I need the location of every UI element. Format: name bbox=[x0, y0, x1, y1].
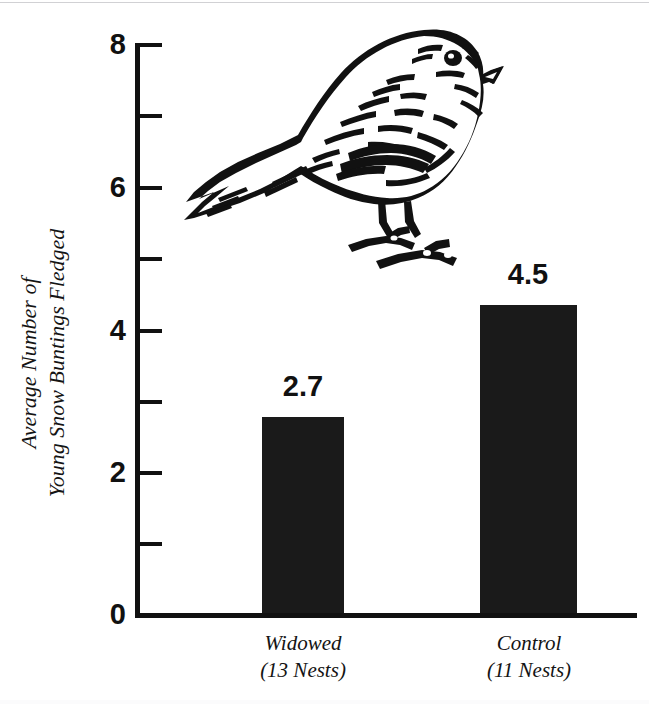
y-tick-label-8: 8 bbox=[92, 30, 126, 59]
y-tick-8 bbox=[140, 43, 162, 47]
y-tick-5 bbox=[140, 257, 162, 261]
y-tick-3 bbox=[140, 400, 162, 404]
y-tick-7 bbox=[140, 114, 162, 118]
y-axis-title: Average Number of Young Snow Buntings Fl… bbox=[15, 198, 71, 528]
y-tick-label-2: 2 bbox=[92, 458, 126, 487]
x-category-widowed-nests: (13 Nests) bbox=[223, 657, 383, 684]
bar-widowed bbox=[262, 417, 344, 613]
x-category-control: Control (11 Nests) bbox=[449, 630, 609, 684]
x-category-control-nests: (11 Nests) bbox=[449, 657, 609, 684]
caption-ghost-text bbox=[14, 690, 634, 700]
bar-value-control: 4.5 bbox=[478, 260, 578, 289]
x-category-widowed: Widowed (13 Nests) bbox=[223, 630, 383, 684]
y-tick-4 bbox=[140, 329, 162, 333]
y-axis-title-line-1: Average Number of bbox=[15, 198, 43, 528]
bar-value-widowed: 2.7 bbox=[253, 372, 353, 401]
x-axis-spine bbox=[135, 613, 637, 618]
plot-area: 8 6 4 2 0 Average Number of Young Snow B… bbox=[0, 0, 649, 706]
y-tick-2 bbox=[140, 471, 162, 475]
y-tick-6 bbox=[140, 186, 162, 190]
y-axis-title-line-2: Young Snow Buntings Fledged bbox=[43, 198, 71, 528]
x-category-widowed-name: Widowed bbox=[223, 630, 383, 657]
figure-bar-chart: 8 6 4 2 0 Average Number of Young Snow B… bbox=[0, 0, 649, 706]
y-tick-label-4: 4 bbox=[92, 316, 126, 345]
bar-control bbox=[480, 305, 577, 613]
x-category-control-name: Control bbox=[449, 630, 609, 657]
y-tick-label-6: 6 bbox=[92, 173, 126, 202]
y-tick-1 bbox=[140, 542, 162, 546]
y-tick-label-0: 0 bbox=[92, 600, 126, 629]
